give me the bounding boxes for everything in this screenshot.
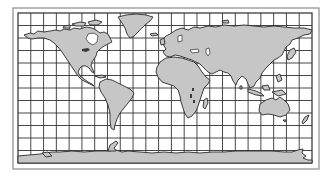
land-sri-lanka bbox=[240, 86, 242, 89]
land-novaya-zemlya bbox=[222, 20, 229, 23]
black-sea bbox=[190, 49, 199, 53]
baltic-sea bbox=[178, 35, 182, 42]
world-map bbox=[0, 0, 334, 182]
land-iceland bbox=[150, 33, 158, 36]
